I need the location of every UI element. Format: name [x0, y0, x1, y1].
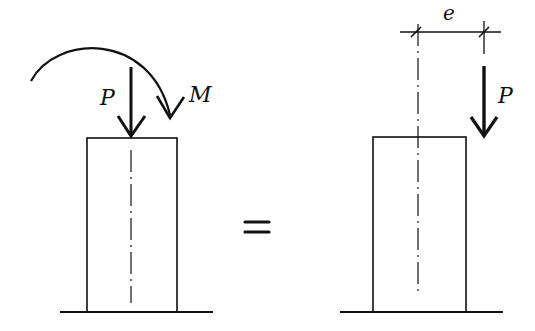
left-column: [87, 138, 177, 312]
moment-label: M: [188, 82, 212, 107]
right-force-label: P: [497, 83, 514, 108]
left-system: P M: [31, 48, 213, 312]
equals-sign: [245, 222, 269, 232]
left-force-label: P: [99, 85, 116, 110]
right-column: [373, 137, 466, 312]
eccentricity-label: e: [443, 1, 455, 25]
right-system: e P: [340, 1, 514, 312]
equivalence-diagram: P M e P: [0, 0, 535, 331]
